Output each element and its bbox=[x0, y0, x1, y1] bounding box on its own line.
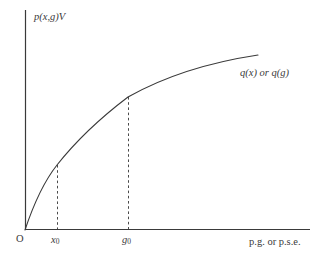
tick-label-g0-subscript: 0 bbox=[127, 237, 131, 246]
y-axis-label: p(x,g)V bbox=[34, 12, 65, 23]
curve-q bbox=[25, 55, 258, 230]
origin-label: O bbox=[16, 234, 24, 245]
curve-label: q(x) or q(g) bbox=[240, 68, 289, 79]
tick-label-x0-subscript: 0 bbox=[56, 237, 60, 246]
tick-label-g0: g0 bbox=[122, 235, 131, 246]
plot-canvas bbox=[0, 0, 321, 263]
x-axis-label: p.g. or p.s.e. bbox=[249, 237, 301, 248]
tick-label-x0: x0 bbox=[51, 235, 59, 246]
figure-container: p(x,g)V q(x) or q(g) p.g. or p.s.e. O x0… bbox=[0, 0, 321, 263]
